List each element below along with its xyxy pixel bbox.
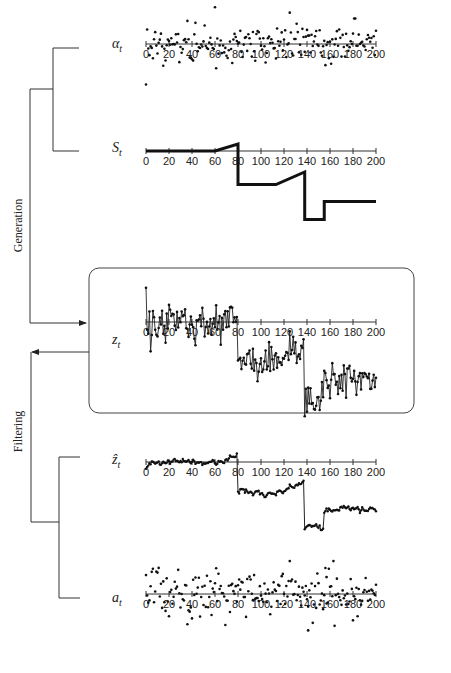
svg-text:100: 100	[252, 466, 270, 478]
svg-text:0: 0	[143, 598, 149, 610]
svg-text:0: 0	[143, 155, 149, 167]
label-z: zt	[112, 332, 120, 350]
svg-text:140: 140	[298, 466, 316, 478]
label-alpha-subscript: t	[119, 43, 122, 54]
label-S: St	[112, 140, 122, 158]
svg-text:80: 80	[232, 326, 244, 338]
svg-text:120: 120	[275, 466, 293, 478]
svg-text:20: 20	[163, 466, 175, 478]
svg-text:180: 180	[344, 466, 362, 478]
filtering-bracket	[31, 352, 89, 598]
svg-text:60: 60	[209, 598, 221, 610]
label-S-subscript: t	[119, 147, 122, 158]
svg-text:60: 60	[209, 466, 221, 478]
z-series	[145, 287, 378, 418]
svg-text:160: 160	[321, 466, 339, 478]
svg-text:200: 200	[367, 48, 385, 60]
svg-text:120: 120	[275, 155, 293, 167]
svg-text:100: 100	[252, 155, 270, 167]
filtering-label: Filtering	[11, 408, 26, 456]
svg-text:160: 160	[321, 155, 339, 167]
label-a-subscript: t	[119, 597, 122, 608]
label-zhat-subscript: t	[117, 459, 120, 470]
svg-text:160: 160	[321, 326, 339, 338]
svg-text:180: 180	[344, 326, 362, 338]
generation-label: Generation	[11, 196, 26, 256]
svg-text:200: 200	[367, 155, 385, 167]
label-zhat: ẑt	[112, 452, 120, 470]
a-points	[145, 560, 378, 632]
generation-bracket	[30, 48, 86, 323]
svg-text:60: 60	[209, 155, 221, 167]
label-z-subscript: t	[117, 339, 120, 350]
svg-text:40: 40	[186, 466, 198, 478]
label-alpha: αt	[112, 36, 122, 54]
observed-series-box	[89, 268, 414, 413]
svg-text:120: 120	[275, 48, 293, 60]
alpha-points	[145, 6, 378, 86]
svg-text:180: 180	[344, 48, 362, 60]
label-a: at	[112, 590, 122, 608]
svg-text:180: 180	[344, 155, 362, 167]
label-S-symbol: S	[112, 140, 119, 155]
label-a-symbol: a	[112, 590, 119, 605]
diagram-canvas: 0204060801001201401601802000204060801001…	[0, 0, 451, 673]
svg-text:200: 200	[367, 466, 385, 478]
svg-text:40: 40	[186, 598, 198, 610]
svg-text:200: 200	[367, 326, 385, 338]
svg-text:20: 20	[163, 155, 175, 167]
svg-text:140: 140	[298, 326, 316, 338]
svg-text:40: 40	[186, 155, 198, 167]
svg-text:140: 140	[298, 155, 316, 167]
svg-text:80: 80	[232, 598, 244, 610]
svg-text:100: 100	[252, 326, 270, 338]
